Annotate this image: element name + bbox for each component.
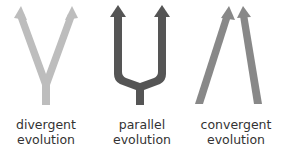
label-line-2: evolution xyxy=(1,132,91,147)
label-line-2: evolution xyxy=(97,132,187,147)
divergent-evolution-label: divergent evolution xyxy=(1,117,91,147)
label-line-1: parallel xyxy=(97,117,187,132)
parallel-evolution-label: parallel evolution xyxy=(97,117,187,147)
parallel-arrow-icon xyxy=(110,5,170,105)
label-line-2: evolution xyxy=(191,132,281,147)
label-line-1: convergent xyxy=(191,117,281,132)
convergent-arrow-icon xyxy=(195,6,262,104)
label-line-1: divergent xyxy=(1,117,91,132)
convergent-evolution-label: convergent evolution xyxy=(191,117,281,147)
divergent-arrow-icon xyxy=(14,6,78,105)
